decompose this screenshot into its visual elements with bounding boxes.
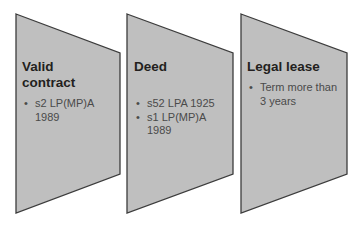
step-title: Legal lease bbox=[247, 59, 347, 75]
bullet-item: Term more than 3 years bbox=[247, 81, 347, 108]
bullet-list: s2 LP(MP)A 1989 bbox=[22, 97, 118, 124]
title-line: Valid bbox=[22, 59, 54, 74]
step-legal-lease: Legal lease Term more than 3 years bbox=[247, 59, 347, 108]
bullet-item: s2 LP(MP)A 1989 bbox=[22, 97, 118, 124]
title-line: contract bbox=[22, 75, 75, 90]
bullet-list: Term more than 3 years bbox=[247, 81, 347, 108]
step-title: Deed bbox=[134, 59, 232, 75]
step-deed: Deed s52 LPA 1925 s1 LP(MP)A 1989 bbox=[134, 59, 232, 138]
bullet-item: s52 LPA 1925 bbox=[134, 97, 232, 111]
step-title: Valid contract bbox=[22, 59, 118, 91]
bullet-item: s1 LP(MP)A 1989 bbox=[134, 111, 232, 138]
bullet-list: s52 LPA 1925 s1 LP(MP)A 1989 bbox=[134, 97, 232, 138]
step-shape-3 bbox=[241, 14, 347, 213]
step-valid-contract: Valid contract s2 LP(MP)A 1989 bbox=[22, 59, 118, 124]
title-line: Legal lease bbox=[247, 59, 320, 74]
title-line: Deed bbox=[134, 59, 167, 74]
